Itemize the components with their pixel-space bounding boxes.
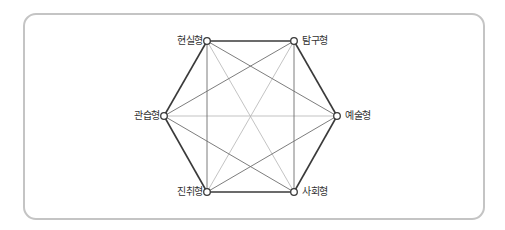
label-conventional: 관습형 (134, 110, 160, 122)
node-enterprising (204, 189, 211, 196)
edge-investigative-artistic (294, 41, 337, 116)
node-realistic (204, 38, 211, 45)
label-social: 사회형 (302, 186, 328, 198)
hexagon-diagram (0, 0, 505, 230)
label-enterprising: 진취형 (177, 186, 203, 198)
label-artistic: 예술형 (345, 110, 371, 122)
node-conventional (161, 113, 168, 120)
edge-investigative-conventional (164, 41, 294, 116)
edge-enterprising-conventional (164, 116, 207, 192)
label-realistic: 현실형 (177, 35, 203, 47)
edge-social-conventional (164, 116, 294, 192)
edge-realistic-artistic (207, 41, 337, 116)
edge-realistic-conventional (164, 41, 207, 116)
center-diagonal-edges (164, 41, 337, 192)
edge-artistic-enterprising (207, 116, 337, 192)
node-investigative (291, 38, 298, 45)
node-artistic (334, 113, 341, 120)
node-social (291, 189, 298, 196)
label-investigative: 탐구형 (302, 35, 328, 47)
edge-artistic-social (294, 116, 337, 192)
